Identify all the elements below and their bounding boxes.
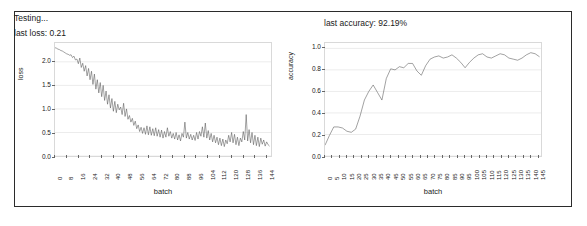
accuracy-chart-x-tick: 100 bbox=[474, 170, 480, 180]
accuracy-chart-x-tick-mark bbox=[339, 155, 340, 158]
loss-chart-x-tick: 48 bbox=[127, 173, 133, 180]
loss-chart-x-tick-mark bbox=[101, 155, 102, 158]
accuracy-chart-x-tick-mark bbox=[530, 155, 531, 158]
loss-x-axis-label: batch bbox=[54, 187, 272, 196]
accuracy-chart-x-tick-mark bbox=[449, 155, 450, 158]
accuracy-chart-x-tick: 85 bbox=[452, 173, 458, 180]
loss-chart-x-tick-mark bbox=[172, 155, 173, 158]
loss-chart: loss 08162432404856647280889610411212012… bbox=[18, 40, 276, 185]
loss-chart-x-tick-mark bbox=[125, 155, 126, 158]
loss-chart-x-tick-mark bbox=[136, 155, 137, 158]
loss-chart-x-tick-mark bbox=[66, 155, 67, 158]
accuracy-chart-x-tick: 15 bbox=[349, 173, 355, 180]
loss-chart-y-tick: 1.5 bbox=[30, 81, 51, 88]
loss-chart-x-tick-mark bbox=[266, 155, 267, 158]
loss-chart-y-tick: 1.0 bbox=[30, 105, 51, 112]
accuracy-chart-x-tick: 110 bbox=[489, 170, 495, 180]
accuracy-chart-x-tick-mark bbox=[434, 155, 435, 158]
accuracy-y-axis-label: accuracy bbox=[287, 52, 294, 80]
accuracy-x-ticks: 0510152025303540455055606570758085909510… bbox=[324, 158, 542, 186]
accuracy-chart-x-tick: 105 bbox=[481, 170, 487, 180]
accuracy-chart-x-tick-mark bbox=[538, 155, 539, 158]
loss-chart-x-tick-mark bbox=[254, 155, 255, 158]
accuracy-chart-x-tick: 145 bbox=[540, 170, 546, 180]
accuracy-chart-x-tick-mark bbox=[523, 155, 524, 158]
accuracy-chart-x-tick-mark bbox=[493, 155, 494, 158]
loss-chart-x-tick-mark bbox=[78, 155, 79, 158]
accuracy-chart-x-tick: 125 bbox=[511, 170, 517, 180]
loss-chart-x-tick-mark bbox=[243, 155, 244, 158]
accuracy-plot-area bbox=[324, 42, 542, 157]
accuracy-chart-x-tick-mark bbox=[376, 155, 377, 158]
accuracy-chart-x-tick-mark bbox=[361, 155, 362, 158]
loss-chart-x-tick-mark bbox=[207, 155, 208, 158]
accuracy-chart-x-tick: 50 bbox=[400, 173, 406, 180]
loss-x-ticks: 0816243240485664728088961041121201281361… bbox=[54, 158, 272, 186]
loss-chart-x-tick: 0 bbox=[57, 177, 63, 180]
loss-chart-x-tick-mark bbox=[160, 155, 161, 158]
accuracy-chart-x-tick: 10 bbox=[341, 173, 347, 180]
accuracy-chart-x-tick: 130 bbox=[518, 170, 524, 180]
status-block: Testing... last loss: 0.21 bbox=[14, 11, 66, 41]
loss-chart-x-tick: 144 bbox=[269, 170, 275, 180]
loss-chart-x-tick-mark bbox=[184, 155, 185, 158]
accuracy-chart-x-tick: 80 bbox=[444, 173, 450, 180]
loss-chart-x-tick: 88 bbox=[186, 173, 192, 180]
accuracy-chart-x-tick-mark bbox=[479, 155, 480, 158]
accuracy-chart-x-tick-mark bbox=[501, 155, 502, 158]
loss-chart-x-tick: 64 bbox=[151, 173, 157, 180]
accuracy-chart: last accuracy: 92.19% accuracy 051015202… bbox=[288, 40, 546, 185]
accuracy-plot-svg bbox=[325, 43, 541, 156]
last-accuracy-text: last accuracy: 92.19% bbox=[324, 18, 407, 28]
accuracy-chart-x-tick: 120 bbox=[503, 170, 509, 180]
loss-y-axis-label: loss bbox=[17, 68, 24, 80]
accuracy-series-line bbox=[325, 53, 540, 146]
loss-plot-area bbox=[54, 42, 272, 157]
accuracy-chart-x-tick: 60 bbox=[415, 173, 421, 180]
loss-series-line bbox=[55, 48, 270, 147]
accuracy-chart-x-tick: 95 bbox=[466, 173, 472, 180]
loss-chart-x-tick-mark bbox=[89, 155, 90, 158]
accuracy-chart-y-tick: 0.8 bbox=[300, 65, 321, 72]
accuracy-chart-x-tick-mark bbox=[464, 155, 465, 158]
accuracy-chart-x-tick: 90 bbox=[459, 173, 465, 180]
accuracy-chart-x-tick: 65 bbox=[422, 173, 428, 180]
accuracy-chart-x-tick: 55 bbox=[408, 173, 414, 180]
status-last-loss-text: last loss: 0.21 bbox=[14, 26, 66, 41]
loss-chart-x-tick: 96 bbox=[198, 173, 204, 180]
accuracy-chart-x-tick-mark bbox=[508, 155, 509, 158]
loss-chart-x-tick: 32 bbox=[104, 173, 110, 180]
accuracy-chart-x-tick: 40 bbox=[385, 173, 391, 180]
accuracy-chart-x-tick-mark bbox=[405, 155, 406, 158]
accuracy-chart-x-tick: 30 bbox=[371, 173, 377, 180]
loss-chart-x-tick: 16 bbox=[80, 173, 86, 180]
loss-chart-x-tick: 80 bbox=[174, 173, 180, 180]
loss-chart-x-tick-mark bbox=[231, 155, 232, 158]
accuracy-x-axis-label: batch bbox=[324, 187, 542, 196]
loss-chart-x-tick: 128 bbox=[245, 170, 251, 180]
accuracy-chart-x-tick-mark bbox=[420, 155, 421, 158]
accuracy-chart-x-tick-mark bbox=[486, 155, 487, 158]
loss-chart-x-tick: 24 bbox=[92, 173, 98, 180]
accuracy-chart-x-tick-mark bbox=[471, 155, 472, 158]
loss-chart-x-tick: 8 bbox=[68, 177, 74, 180]
accuracy-chart-x-tick-mark bbox=[398, 155, 399, 158]
loss-chart-x-tick-mark bbox=[219, 155, 220, 158]
loss-plot-svg bbox=[55, 43, 271, 156]
accuracy-chart-y-tick: 1.0 bbox=[300, 43, 321, 50]
accuracy-gridlines bbox=[325, 48, 541, 156]
accuracy-chart-x-tick-mark bbox=[390, 155, 391, 158]
accuracy-chart-x-tick: 5 bbox=[334, 177, 340, 180]
accuracy-chart-x-tick: 75 bbox=[437, 173, 443, 180]
loss-chart-x-tick: 72 bbox=[163, 173, 169, 180]
loss-chart-x-tick: 120 bbox=[233, 170, 239, 180]
accuracy-chart-x-tick: 70 bbox=[430, 173, 436, 180]
accuracy-chart-y-tick: 0.4 bbox=[300, 109, 321, 116]
accuracy-chart-x-tick: 135 bbox=[525, 170, 531, 180]
loss-chart-y-tick: 0.0 bbox=[30, 153, 51, 160]
loss-gridlines bbox=[55, 62, 271, 156]
screenshot-root: Testing... last loss: 0.21 loss 08162432… bbox=[0, 0, 587, 226]
accuracy-chart-x-tick: 140 bbox=[533, 170, 539, 180]
accuracy-chart-x-tick-mark bbox=[383, 155, 384, 158]
loss-chart-x-tick: 104 bbox=[210, 170, 216, 180]
